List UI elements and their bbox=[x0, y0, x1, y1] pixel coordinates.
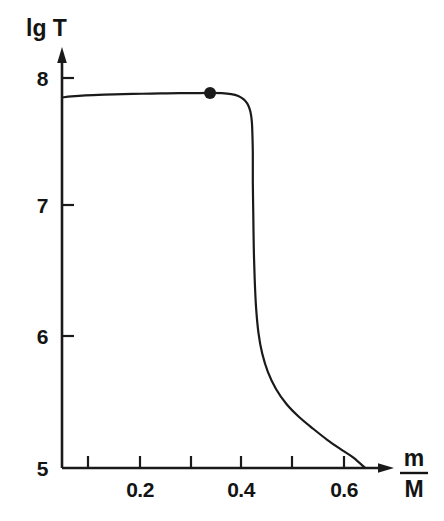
y-tick-label-5: 5 bbox=[37, 457, 49, 480]
plot-canvas: 8 7 6 5 0.2 0.4 0.6 lg T m M bbox=[0, 0, 444, 521]
x-axis-title-numerator: m bbox=[404, 445, 424, 471]
x-axis-title-denominator: M bbox=[404, 476, 423, 502]
data-curve bbox=[62, 93, 365, 468]
x-tick-label-04: 0.4 bbox=[227, 478, 256, 501]
x-ticks-group bbox=[88, 456, 344, 468]
x-axis-arrow-icon bbox=[378, 463, 394, 473]
x-tick-labels-group: 0.2 0.4 0.6 bbox=[126, 478, 358, 501]
y-tick-label-7: 7 bbox=[37, 194, 48, 217]
highlight-point-marker bbox=[204, 87, 216, 99]
y-tick-label-8: 8 bbox=[37, 67, 49, 90]
chart-figure: 8 7 6 5 0.2 0.4 0.6 lg T m M bbox=[0, 0, 444, 521]
y-tick-labels-group: 8 7 6 5 bbox=[37, 67, 49, 480]
x-tick-label-06: 0.6 bbox=[330, 478, 358, 501]
y-axis-title: lg T bbox=[26, 15, 67, 41]
y-ticks-group bbox=[62, 78, 74, 336]
y-tick-label-6: 6 bbox=[37, 325, 48, 348]
axes-group bbox=[57, 47, 394, 473]
x-axis-title: m M bbox=[400, 445, 428, 502]
y-axis-arrow-icon bbox=[57, 47, 67, 63]
x-tick-label-02: 0.2 bbox=[126, 478, 154, 501]
